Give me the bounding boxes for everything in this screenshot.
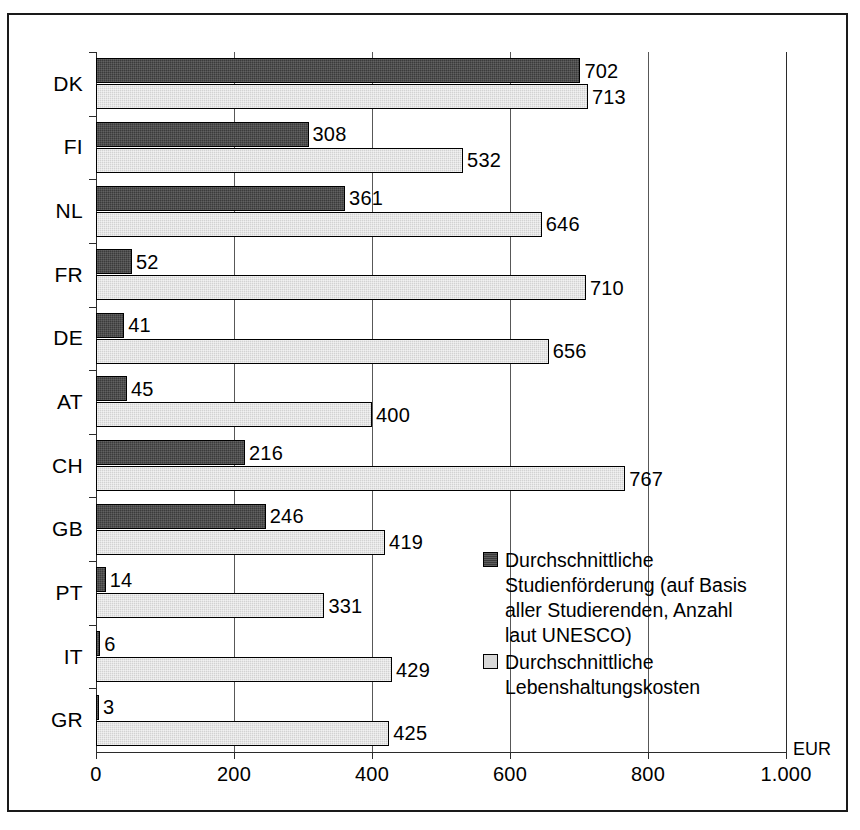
chart-bar[interactable]: 532 [96,148,463,173]
chart-bar[interactable]: 361 [96,186,345,211]
chart-bar[interactable]: 429 [96,657,392,682]
category-axis-label: NL [56,199,83,223]
category-axis-label: FI [64,135,83,159]
chart-bar[interactable]: 246 [96,504,266,529]
category-axis-label: PT [56,581,83,605]
value-axis-tick [786,752,787,759]
chart-category-row: DK702713 [96,52,786,116]
bar-value-label: 429 [396,658,430,681]
legend-item-studienfoerderung[interactable]: Durchschnittliche Studienförderung (auf … [483,548,755,648]
chart-category-row: FI308532 [96,116,786,180]
chart-bar[interactable]: 646 [96,212,542,237]
bar-value-label: 3 [103,696,114,719]
chart-bar[interactable]: 767 [96,466,625,491]
bar-value-label: 710 [590,276,624,299]
value-axis-unit-label: EUR [793,739,831,760]
bar-value-label: 419 [389,531,423,554]
category-axis-tick [89,434,96,435]
chart-bar[interactable]: 425 [96,721,389,746]
chart-bar[interactable]: 3 [96,695,99,720]
value-axis-tick-label: 400 [355,763,389,786]
dark-swatch-icon [483,552,498,567]
chart-bar[interactable]: 308 [96,122,309,147]
chart-bar[interactable]: 14 [96,567,106,592]
bar-value-label: 532 [467,149,501,172]
chart-bar[interactable]: 400 [96,402,372,427]
bar-value-label: 52 [136,250,159,273]
category-axis-label: DK [53,72,83,96]
category-axis-label: DE [53,326,83,350]
category-axis-label: FR [54,263,83,287]
category-axis-tick [89,52,96,53]
bar-value-label: 656 [553,340,587,363]
category-axis-label: GR [51,708,83,732]
chart-bar[interactable]: 656 [96,339,549,364]
category-axis-tick [89,307,96,308]
category-axis-label: GB [52,517,83,541]
chart-bar[interactable]: 45 [96,376,127,401]
category-axis-tick [89,116,96,117]
value-axis-tick-label: 1.000 [760,763,811,786]
chart-bar[interactable]: 6 [96,631,100,656]
bar-value-label: 308 [313,123,347,146]
category-axis-label: AT [57,390,83,414]
figure-frame: 02004006008001.000 EUR DK702713FI308532N… [7,13,848,812]
bar-value-label: 14 [110,568,133,591]
chart-bar[interactable]: 710 [96,275,586,300]
category-axis-label: IT [64,645,83,669]
bar-value-label: 425 [393,722,427,745]
value-axis-tick-label: 0 [90,763,101,786]
value-axis-tick [510,752,511,759]
bar-value-label: 216 [249,441,283,464]
bar-value-label: 767 [629,467,663,490]
chart-category-row: NL361646 [96,179,786,243]
bar-value-label: 646 [546,213,580,236]
chart-bar[interactable]: 216 [96,440,245,465]
bar-value-label: 361 [349,187,383,210]
chart-bar[interactable]: 713 [96,84,588,109]
value-axis-line [96,752,786,753]
chart-bar[interactable]: 331 [96,593,324,618]
category-axis-tick [89,179,96,180]
category-axis-tick [89,561,96,562]
chart-bar[interactable]: 52 [96,249,132,274]
light-swatch-icon [483,654,498,669]
legend-item-label: Durchschnittliche Studienförderung (auf … [505,548,755,648]
value-axis-tick [372,752,373,759]
chart-category-row: AT45400 [96,370,786,434]
gridline [786,52,787,752]
chart-category-row: FR52710 [96,243,786,307]
legend-item-lebenshaltungskosten[interactable]: Durchschnittliche Lebenshaltungskosten [483,650,755,700]
category-axis-tick [89,370,96,371]
category-axis-tick [89,688,96,689]
bar-value-label: 41 [128,314,151,337]
value-axis-tick [234,752,235,759]
value-axis-tick [96,752,97,759]
value-axis-tick-label: 200 [217,763,251,786]
value-axis-tick-label: 600 [493,763,527,786]
value-axis-tick [648,752,649,759]
value-axis-tick-label: 800 [631,763,665,786]
category-axis-tick [89,243,96,244]
chart-category-row: DE41656 [96,307,786,371]
bar-value-label: 6 [104,632,115,655]
bar-value-label: 400 [376,403,410,426]
bar-value-label: 45 [131,377,154,400]
bar-value-label: 702 [584,59,618,82]
bar-value-label: 331 [328,594,362,617]
bar-value-label: 246 [270,505,304,528]
chart-bar[interactable]: 419 [96,530,385,555]
bar-value-label: 713 [592,85,626,108]
chart-bar[interactable]: 41 [96,313,124,338]
category-axis-label: CH [52,454,83,478]
chart-category-row: CH216767 [96,434,786,498]
category-axis-tick [89,497,96,498]
chart-bar[interactable]: 702 [96,58,580,83]
category-axis-tick [89,625,96,626]
legend-item-label: Durchschnittliche Lebenshaltungskosten [505,650,755,700]
chart-legend: Durchschnittliche Studienförderung (auf … [483,548,755,702]
